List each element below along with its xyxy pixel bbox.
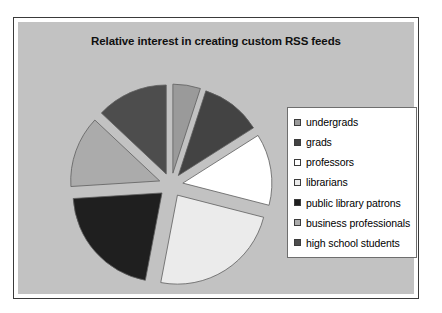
chart-title: Relative interest in creating custom RSS… bbox=[18, 35, 414, 47]
legend-item: business professionals bbox=[294, 213, 416, 233]
legend-swatch-icon bbox=[294, 139, 301, 146]
legend-swatch-icon bbox=[294, 199, 301, 206]
legend-label: public library patrons bbox=[306, 197, 401, 209]
legend-item: professors bbox=[294, 152, 416, 172]
legend-item: librarians bbox=[294, 172, 416, 192]
legend-label: professors bbox=[306, 156, 354, 168]
legend-label: business professionals bbox=[306, 217, 410, 229]
legend-swatch-icon bbox=[294, 219, 301, 226]
legend: undergradsgradsprofessorslibrarianspubli… bbox=[287, 107, 417, 258]
legend-label: grads bbox=[306, 136, 332, 148]
legend-swatch-icon bbox=[294, 159, 301, 166]
pie-slice-public-library-patrons bbox=[73, 193, 162, 280]
legend-item: high school students bbox=[294, 233, 416, 253]
legend-swatch-icon bbox=[294, 119, 301, 126]
legend-item: undergrads bbox=[294, 112, 416, 132]
legend-label: high school students bbox=[306, 237, 400, 249]
chart-frame: Relative interest in creating custom RSS… bbox=[13, 17, 419, 299]
legend-label: librarians bbox=[306, 176, 348, 188]
legend-swatch-icon bbox=[294, 179, 301, 186]
page: Relative interest in creating custom RSS… bbox=[0, 0, 442, 313]
legend-item: grads bbox=[294, 132, 416, 152]
legend-item: public library patrons bbox=[294, 193, 416, 213]
pie-slice-librarians bbox=[161, 195, 264, 284]
chart-plot-area: Relative interest in creating custom RSS… bbox=[18, 22, 414, 294]
legend-label: undergrads bbox=[306, 116, 358, 128]
legend-swatch-icon bbox=[294, 239, 301, 246]
